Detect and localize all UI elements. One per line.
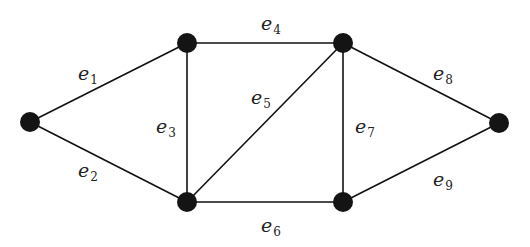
- node-v3: [177, 192, 197, 212]
- edge-label-e9: e9: [433, 168, 453, 193]
- node-v2: [177, 33, 197, 53]
- edges-layer: [30, 43, 499, 202]
- edge-label-e7: e7: [355, 115, 375, 140]
- node-v1: [20, 112, 40, 132]
- edge-label-e3: e3: [156, 115, 176, 140]
- edge-label-e6: e6: [261, 214, 281, 239]
- graph-diagram: e1e2e3e4e5e6e7e8e9: [0, 0, 530, 247]
- node-v5: [333, 192, 353, 212]
- edge-label-e4: e4: [261, 12, 281, 37]
- node-v6: [489, 113, 509, 133]
- edge-e5: [187, 43, 343, 202]
- labels-layer: e1e2e3e4e5e6e7e8e9: [78, 12, 453, 239]
- node-v4: [333, 33, 353, 53]
- edge-e1: [30, 43, 187, 122]
- edge-e8: [343, 43, 499, 123]
- edge-label-e5: e5: [251, 86, 271, 111]
- edge-label-e8: e8: [433, 62, 453, 87]
- edge-label-e1: e1: [78, 62, 98, 87]
- edge-label-e2: e2: [78, 159, 98, 184]
